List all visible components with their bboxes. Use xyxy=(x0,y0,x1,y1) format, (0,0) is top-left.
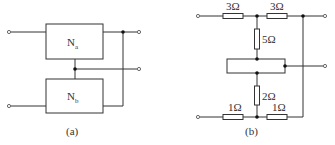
circuit-figure: Na Nb (a) 3Ω 3Ω xyxy=(0,0,335,145)
resistor-bottom-right xyxy=(267,115,287,120)
resistor-vertical-lower xyxy=(255,86,260,105)
junction-dot xyxy=(301,14,305,18)
junction-dot xyxy=(255,115,259,119)
caption-a: (a) xyxy=(66,125,79,138)
panel-b: 3Ω 3Ω 5Ω 2Ω 1Ω 1Ω xyxy=(196,0,326,138)
terminal xyxy=(7,30,10,33)
short-loop xyxy=(227,59,285,73)
resistor-label: 3Ω xyxy=(270,0,284,12)
junction-dot xyxy=(255,71,259,75)
junction-dot xyxy=(283,64,287,68)
resistor-top-right xyxy=(267,14,287,19)
resistor-top-left xyxy=(223,14,243,19)
terminal xyxy=(7,104,10,107)
terminal xyxy=(323,14,326,17)
junction-dot xyxy=(255,57,259,61)
junction-dot xyxy=(255,14,259,18)
terminal xyxy=(196,14,199,17)
resistor-label: 5Ω xyxy=(262,33,276,45)
resistor-bottom-left xyxy=(223,115,243,120)
terminal xyxy=(137,67,140,70)
resistor-label: 1Ω xyxy=(228,101,242,113)
resistor-label: 3Ω xyxy=(226,0,240,12)
resistor-label: 1Ω xyxy=(272,101,286,113)
junction-dot xyxy=(73,67,77,71)
resistor-vertical-upper xyxy=(255,29,260,49)
terminal xyxy=(196,115,199,118)
panel-a: Na Nb (a) xyxy=(7,24,140,138)
junction-dot xyxy=(121,30,125,34)
terminal xyxy=(323,64,326,67)
caption-b: (b) xyxy=(245,125,258,138)
terminal xyxy=(137,30,140,33)
